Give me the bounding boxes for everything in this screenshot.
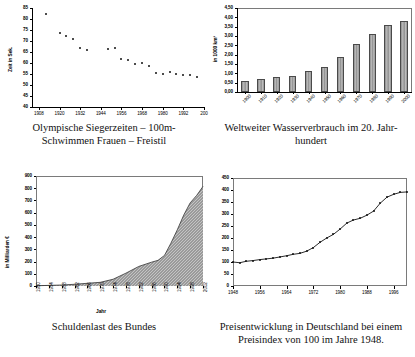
y-tick-label: 4,50 xyxy=(213,5,233,10)
y-tick-label: 0,50 xyxy=(213,80,233,85)
data-point xyxy=(306,250,308,252)
data-point xyxy=(162,73,164,75)
x-tick-label: 1974 xyxy=(113,286,118,292)
data-point xyxy=(72,38,74,40)
data-point xyxy=(127,59,129,61)
bar xyxy=(257,79,264,92)
x-tick-label: 1980 xyxy=(367,91,382,106)
x-tick-label: 1900 xyxy=(239,91,254,106)
figure-caption-preise: Preisentwicklung in Deutschland bei eine… xyxy=(207,321,415,346)
y-tick xyxy=(231,214,234,215)
caption-line-2: Preisindex von 100 im Jahre 1948. xyxy=(207,334,415,347)
x-tick xyxy=(121,107,122,110)
data-point xyxy=(120,58,122,60)
x-tick xyxy=(394,286,395,289)
caption-line-1: Olympische Siegerzeiten – 100m- xyxy=(0,122,208,135)
y-tick-label: 300 xyxy=(211,211,229,216)
caption-line-1: Weltweiter Wasserverbrauch im 20. Jahr- xyxy=(207,122,415,135)
bar xyxy=(321,67,328,92)
bar xyxy=(400,21,407,92)
bar xyxy=(273,77,280,92)
figure-wasserverbrauch: in 1000 km³ 0,000,501,001,502,002,503,00… xyxy=(207,0,415,160)
caption-line-1: Schuldenlast des Bundes xyxy=(0,321,208,334)
x-tick-label: 1994 xyxy=(177,286,182,292)
x-tick xyxy=(60,107,61,110)
figure-caption-wasser: Weltweiter Wasserverbrauch im 20. Jahr- … xyxy=(207,122,415,147)
data-point xyxy=(406,191,408,193)
x-tick-label: 1972 xyxy=(304,290,322,295)
chart-schulden: in Milliarden € Jahr 0100200300400500600… xyxy=(0,168,208,318)
chart-preise: 0501001502002503003504004501948195619641… xyxy=(207,168,415,318)
y-tick xyxy=(231,238,234,239)
y-tick-label: 3,50 xyxy=(213,24,233,29)
y-tick xyxy=(235,73,238,74)
y-tick xyxy=(30,52,33,53)
y-tick-label: 60 xyxy=(10,60,28,65)
x-tick xyxy=(163,107,164,110)
y-tick xyxy=(235,8,238,9)
x-tick-label: 1950 xyxy=(319,91,334,106)
figure-schuldenlast: in Milliarden € Jahr 0100200300400500600… xyxy=(0,168,208,357)
y-tick xyxy=(231,178,234,179)
x-tick-label: 1992 xyxy=(175,111,191,116)
data-point xyxy=(134,63,136,65)
x-tick xyxy=(80,107,81,110)
x-tick-label: 1950 xyxy=(36,286,41,292)
x-tick-label: 1980 xyxy=(155,111,171,116)
y-tick-label: 2,50 xyxy=(213,43,233,48)
y-tick xyxy=(30,96,33,97)
figure-preisentwicklung: 0501001502002503003504004501948195619641… xyxy=(207,168,415,357)
x-tick xyxy=(309,92,310,94)
figure-caption-schulden: Schuldenlast des Bundes xyxy=(0,321,208,334)
x-tick xyxy=(340,92,341,94)
x-tick xyxy=(372,92,373,94)
y-tick xyxy=(235,64,238,65)
x-tick xyxy=(204,107,205,110)
y-tick-label: 70 xyxy=(10,38,28,43)
data-point xyxy=(107,48,109,50)
x-tick xyxy=(39,107,40,110)
x-tick xyxy=(260,286,261,289)
x-tick-label: 1954 xyxy=(49,286,54,292)
y-tick-label: 4,00 xyxy=(213,15,233,20)
x-tick-label: 1970 xyxy=(351,91,366,106)
y-tick xyxy=(34,274,37,275)
y-tick-label: 0 xyxy=(14,283,32,288)
x-tick-label: 1996 xyxy=(385,290,403,295)
x-tick xyxy=(183,107,184,110)
x-tick-label: 1970 xyxy=(100,286,105,292)
y-tick xyxy=(30,30,33,31)
x-tick xyxy=(245,92,246,94)
y-tick xyxy=(30,85,33,86)
y-tick-label: 2,00 xyxy=(213,52,233,57)
data-point xyxy=(189,74,191,76)
bar xyxy=(369,34,376,92)
y-tick xyxy=(235,45,238,46)
x-tick-label: 1920 xyxy=(271,91,286,106)
x-tick-label: 1998 xyxy=(190,286,195,292)
figure-sheet: Zeit in Sek. 404550556065707580851908192… xyxy=(0,0,415,357)
x-axis-line xyxy=(32,107,204,108)
y-axis-label: in 1000 km³ xyxy=(213,36,218,62)
x-tick-label: 1964 xyxy=(278,290,296,295)
y-tick xyxy=(30,41,33,42)
y-tick xyxy=(34,225,37,226)
y-tick-label: 600 xyxy=(14,210,32,215)
x-tick xyxy=(356,92,357,94)
y-tick-label: 75 xyxy=(10,27,28,32)
x-tick-label: 1920 xyxy=(52,111,68,116)
x-tick xyxy=(293,92,294,94)
bar xyxy=(337,57,344,92)
data-point xyxy=(286,255,288,257)
data-point xyxy=(279,256,281,258)
y-tick-label: 1,00 xyxy=(213,71,233,76)
x-tick-label: 1962 xyxy=(75,286,80,292)
y-tick xyxy=(34,188,37,189)
caption-line-2: Schwimmen Frauen – Freistil xyxy=(0,135,208,148)
caption-line-1: Preisentwicklung in Deutschland bei eine… xyxy=(207,321,415,334)
data-point xyxy=(239,262,241,264)
x-tick-label: 1908 xyxy=(31,111,47,116)
x-tick xyxy=(313,286,314,289)
y-tick-label: 65 xyxy=(10,49,28,54)
x-tick-label: 1968 xyxy=(134,111,150,116)
